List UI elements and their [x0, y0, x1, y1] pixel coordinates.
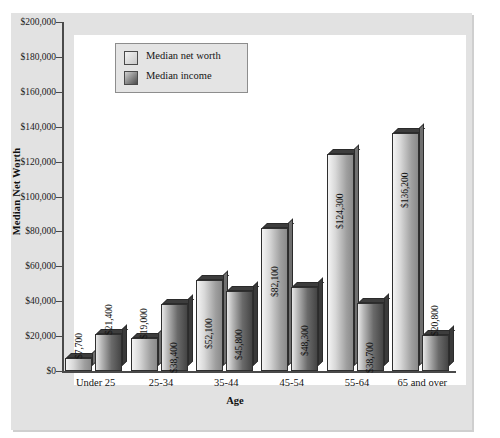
bar-nw-1: [131, 338, 158, 371]
bar-value-label: $52,100: [204, 318, 214, 349]
y-axis-tick: [56, 231, 63, 232]
bar-nw-0: [65, 358, 92, 371]
bar-side-face: [449, 325, 454, 366]
bar-nw-5: [392, 133, 419, 371]
y-axis-tick: [56, 336, 63, 337]
y-axis-tick-label: $120,000: [0, 157, 56, 167]
x-axis-line: [62, 371, 456, 373]
bar-nw-3: [261, 228, 288, 371]
legend-swatch-net-worth-icon: [124, 51, 138, 65]
y-axis-tick: [56, 22, 63, 23]
bar-value-label: $124,300: [335, 193, 345, 229]
x-axis-title-text: Age: [226, 395, 244, 406]
bar-value-label: $38,700: [365, 342, 375, 373]
bar-value-label: $38,400: [169, 342, 179, 373]
y-axis-tick-label: $100,000: [0, 192, 56, 202]
bar-nw-4: [327, 154, 354, 371]
y-axis-tick-label: $160,000: [0, 87, 56, 97]
chart-legend: Median net worth Median income: [115, 43, 248, 93]
bar-inc-5: [422, 335, 449, 371]
y-axis-tick: [56, 197, 63, 198]
bar-side-face: [419, 123, 424, 365]
y-axis-tick: [56, 301, 63, 302]
bar-value-label: $20,800: [430, 305, 440, 336]
y-axis-tick-label: $20,000: [0, 331, 56, 341]
x-axis-category-5: 65 and over: [380, 377, 465, 388]
chart-figure: Median Net Worth $0$20,000$40,000$60,000…: [0, 0, 500, 438]
y-axis-tick: [56, 162, 63, 163]
bar-value-label: $19,000: [139, 308, 149, 339]
bar-inc-0: [95, 334, 122, 371]
y-axis-tick: [56, 127, 63, 128]
y-axis-tick-label: $200,000: [0, 17, 56, 27]
x-axis-title: Age: [0, 395, 500, 406]
bar-value-label: $7,700: [74, 332, 84, 358]
bar-value-label: $21,400: [104, 304, 114, 335]
y-axis-line: [62, 22, 64, 373]
y-axis-tick-label: $140,000: [0, 122, 56, 132]
bar-side-face: [318, 277, 323, 366]
legend-label-net-worth: Median net worth: [146, 50, 221, 61]
y-axis-tick: [56, 371, 63, 372]
bar-value-label: $136,200: [400, 173, 410, 209]
y-axis-tick: [56, 92, 63, 93]
y-axis-tick-label: $180,000: [0, 52, 56, 62]
y-axis-tick: [56, 57, 63, 58]
bar-side-face: [122, 324, 127, 366]
y-axis-tick-label: $0: [0, 366, 56, 376]
y-axis-tick-label: $80,000: [0, 226, 56, 236]
legend-label-income: Median income: [146, 70, 212, 81]
y-axis-tick: [56, 266, 63, 267]
bar-value-label: $45,800: [234, 329, 244, 360]
y-axis-tick-label: $40,000: [0, 296, 56, 306]
bar-side-face: [253, 281, 258, 366]
bar-value-label: $82,100: [270, 266, 280, 297]
bar-side-face: [384, 294, 389, 366]
y-axis-tick-label: $60,000: [0, 261, 56, 271]
bar-value-label: $48,300: [300, 325, 310, 356]
legend-swatch-income-icon: [124, 71, 138, 85]
bar-side-face: [188, 294, 193, 366]
